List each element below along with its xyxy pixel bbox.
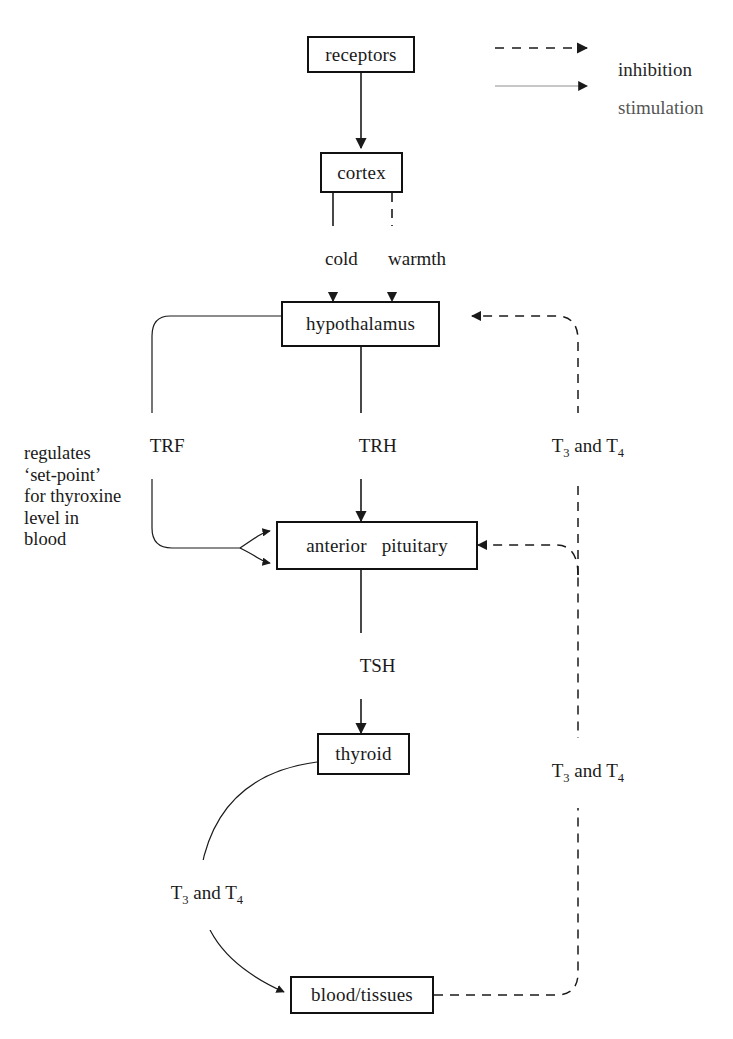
edge-label-trh-text: TRH [359, 435, 397, 456]
edge-label-t3t4-feedback-upper-text: T3 and T4 [552, 435, 624, 456]
edge-label-warmth-text: warmth [388, 248, 446, 269]
node-blood-tissues[interactable]: blood/tissues [290, 976, 434, 1014]
node-thyroid[interactable]: thyroid [317, 733, 410, 775]
node-thyroid-label: thyroid [335, 743, 391, 765]
node-cortex[interactable]: cortex [320, 152, 403, 193]
edge-label-tsh: TSH [338, 633, 399, 699]
node-hypothalamus[interactable]: hypothalamus [281, 301, 440, 347]
note-setpoint: regulates ‘set-point’ for thyroxine leve… [24, 443, 159, 551]
edge-label-warmth: warmth [366, 226, 449, 292]
diagram-canvas: receptors cortex hypothalamus anterior p… [0, 0, 733, 1039]
edge-label-cold: cold [303, 226, 361, 292]
edge-label-tsh-text: TSH [360, 655, 396, 676]
node-receptors-label: receptors [325, 44, 396, 66]
node-hypothalamus-label: hypothalamus [306, 313, 415, 335]
node-receptors[interactable]: receptors [307, 36, 415, 73]
edge-feedback-to-pituitary [478, 545, 578, 575]
edge-label-t3t4-feedback-lower: T3 and T4 [530, 738, 627, 808]
edge-label-t3t4-feedback-upper: T3 and T4 [530, 413, 627, 483]
edge-trf-split-lower [240, 548, 270, 563]
node-cortex-label: cortex [337, 162, 386, 184]
node-anterior-pituitary-label: anterior pituitary [306, 535, 448, 557]
edge-label-t3t4-thyroid-blood-text: T3 and T4 [171, 882, 243, 903]
edge-label-cold-text: cold [325, 248, 358, 269]
node-blood-tissues-label: blood/tissues [311, 984, 413, 1006]
legend-stimulation-text: stimulation [618, 97, 704, 118]
edge-label-t3t4-thyroid-blood: T3 and T4 [149, 860, 246, 930]
edge-trf-split-upper [240, 531, 270, 548]
edge-label-trh: TRH [337, 413, 400, 479]
edge-label-t3t4-feedback-lower-text: T3 and T4 [552, 760, 624, 781]
node-anterior-pituitary[interactable]: anterior pituitary [276, 521, 478, 570]
legend-stimulation-label: stimulation [599, 75, 704, 141]
